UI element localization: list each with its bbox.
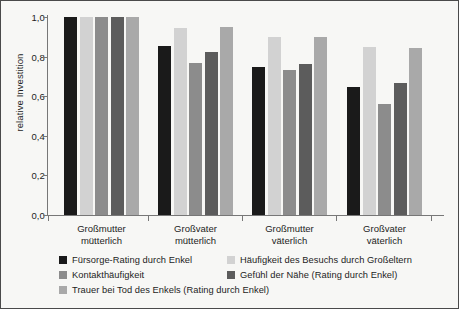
y-axis-tick-label: 0,8 xyxy=(1,51,45,62)
x-axis-category-label: Großmutterväterlich xyxy=(235,223,345,246)
plot-area xyxy=(47,17,443,215)
bar xyxy=(252,67,265,216)
legend-label: Kontakthäufigkeit xyxy=(72,270,144,280)
y-axis-tick-label: 0,4 xyxy=(1,130,45,141)
x-axis-category-label-line: Großvater xyxy=(330,223,440,235)
x-axis-tick-mark xyxy=(336,216,337,221)
legend-swatch-icon xyxy=(227,256,235,264)
legend-swatch-icon xyxy=(59,256,67,264)
legend-label: Trauer bei Tod des Enkels (Rating durch … xyxy=(72,285,269,295)
y-axis-tick-label: 0,6 xyxy=(1,91,45,102)
legend-label: Häufigkeit des Besuchs durch Großeltern xyxy=(240,255,412,265)
bar xyxy=(394,83,407,215)
bar xyxy=(299,64,312,215)
bar xyxy=(409,48,422,215)
legend-entry: Trauer bei Tod des Enkels (Rating durch … xyxy=(59,285,269,295)
legend-row: KontakthäufigkeitGefühl der Nähe (Rating… xyxy=(59,270,449,285)
bar xyxy=(174,28,187,215)
x-axis-category-label-line: väterlich xyxy=(330,235,440,247)
x-axis-category-label-line: Großmutter xyxy=(235,223,345,235)
bar xyxy=(205,52,218,215)
bar xyxy=(126,17,139,215)
legend-entry: Fürsorge-Rating durch Enkel xyxy=(59,255,192,265)
bar xyxy=(80,17,93,215)
x-axis-tick-mark xyxy=(242,216,243,221)
x-axis-tick-mark xyxy=(148,216,149,221)
x-axis-category-label: Großvaterväterlich xyxy=(330,223,440,246)
x-axis-tick-mark xyxy=(431,216,432,221)
bar xyxy=(363,47,376,215)
chart-legend: Fürsorge-Rating durch EnkelHäufigkeit de… xyxy=(59,255,449,300)
bar xyxy=(220,27,233,215)
legend-entry: Gefühl der Nähe (Rating durch Enkel) xyxy=(227,270,397,280)
bar xyxy=(268,37,281,215)
y-axis-tick-label: 1,0 xyxy=(1,12,45,23)
bar xyxy=(347,87,360,215)
bar xyxy=(378,104,391,215)
chart-figure: relative Investition 1,00,80,60,40,20,0 … xyxy=(0,0,459,309)
legend-label: Fürsorge-Rating durch Enkel xyxy=(72,255,192,265)
bar xyxy=(111,17,124,215)
legend-swatch-icon xyxy=(227,271,235,279)
bar xyxy=(189,63,202,215)
legend-label: Gefühl der Nähe (Rating durch Enkel) xyxy=(240,270,397,280)
x-axis-category-label-line: väterlich xyxy=(235,235,345,247)
legend-entry: Häufigkeit des Besuchs durch Großeltern xyxy=(227,255,412,265)
x-axis-line xyxy=(47,215,444,216)
bar xyxy=(64,17,77,215)
legend-swatch-icon xyxy=(59,286,67,294)
y-axis-tick-label: 0,2 xyxy=(1,170,45,181)
legend-row: Fürsorge-Rating durch EnkelHäufigkeit de… xyxy=(59,255,449,270)
bar xyxy=(314,37,327,215)
legend-swatch-icon xyxy=(59,271,67,279)
bar xyxy=(158,46,171,215)
legend-row: Trauer bei Tod des Enkels (Rating durch … xyxy=(59,285,449,300)
x-axis-tick-mark xyxy=(48,216,49,221)
bar xyxy=(95,17,108,215)
y-axis-tick-label: 0,0 xyxy=(1,210,45,221)
bar xyxy=(283,70,296,215)
legend-entry: Kontakthäufigkeit xyxy=(59,270,144,280)
